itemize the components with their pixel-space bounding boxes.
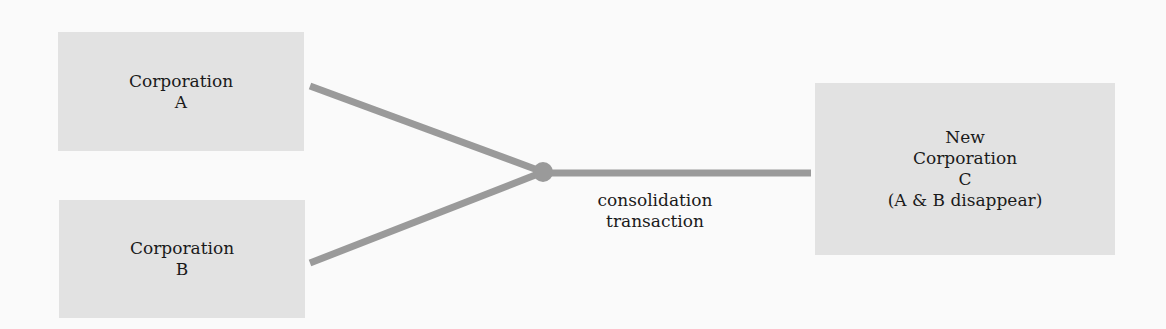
box-c-line-2: Corporation (888, 148, 1043, 169)
box-b-line-2: B (130, 259, 234, 280)
box-c-line-3: C (888, 169, 1043, 190)
box-a-line-1: Corporation (129, 71, 233, 92)
box-a-line-2: A (129, 92, 233, 113)
corporation-a-box: Corporation A (58, 32, 304, 151)
junction-node (533, 162, 553, 182)
edge-a-to-junction (310, 86, 543, 172)
edge-label: consolidation transaction (560, 190, 750, 232)
edge-b-to-junction (310, 172, 543, 263)
box-c-line-4: (A & B disappear) (888, 190, 1043, 211)
edge-label-line-2: transaction (560, 211, 750, 232)
edge-label-line-1: consolidation (560, 190, 750, 211)
box-c-line-1: New (888, 127, 1043, 148)
box-b-line-1: Corporation (130, 238, 234, 259)
corporation-b-box: Corporation B (59, 200, 305, 318)
new-corporation-c-box: New Corporation C (A & B disappear) (815, 83, 1115, 255)
